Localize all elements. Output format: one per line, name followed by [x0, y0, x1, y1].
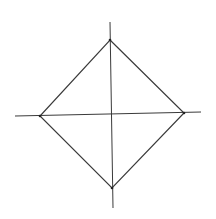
vertex-bottom	[111, 187, 114, 190]
vertex-right	[183, 112, 186, 115]
vertical-axis-line	[110, 22, 113, 208]
vertex-left	[39, 115, 42, 118]
vertex-top	[109, 39, 112, 42]
diamond-diagram	[0, 0, 216, 219]
